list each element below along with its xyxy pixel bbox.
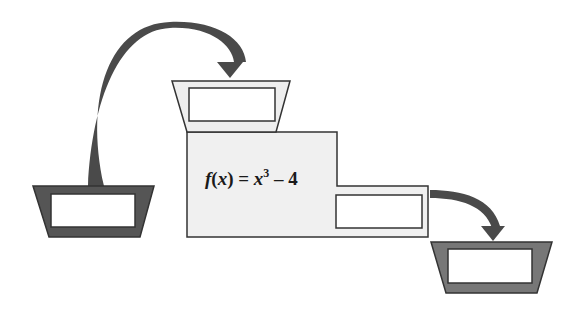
input-box — [51, 194, 135, 227]
machine-output-box — [336, 195, 422, 228]
machine-input-box — [189, 88, 275, 121]
input-arrowhead-icon — [217, 62, 243, 78]
formula-base: x — [254, 168, 264, 189]
output-box — [448, 249, 532, 283]
function-machine-diagram: f(x) = x3 – 4 — [0, 0, 580, 314]
formula-equals: = — [238, 168, 249, 189]
formula-var: x — [218, 168, 228, 189]
output-arrowhead-icon — [481, 226, 505, 241]
diagram-canvas — [0, 0, 580, 314]
formula-func-name: f — [205, 168, 211, 189]
function-formula: f(x) = x3 – 4 — [205, 168, 298, 190]
formula-operator: – — [274, 168, 284, 189]
formula-exponent: 3 — [263, 166, 269, 180]
output-arc-arrow — [430, 190, 500, 228]
formula-constant: 4 — [288, 168, 298, 189]
